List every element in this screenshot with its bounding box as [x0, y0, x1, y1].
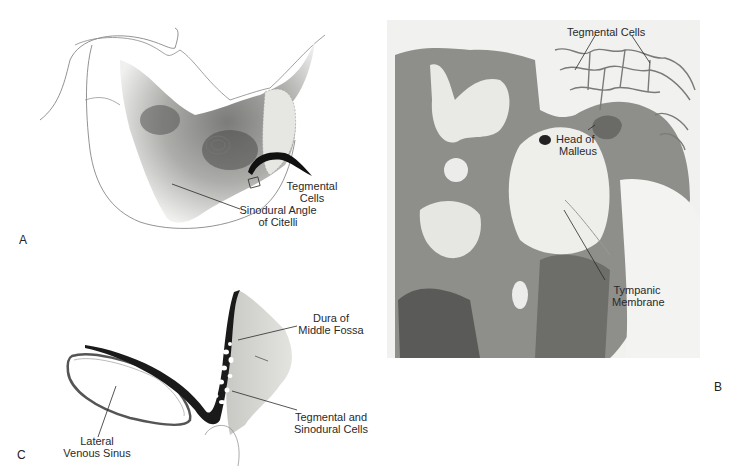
label-line: Venous Sinus [62, 447, 132, 459]
label-line: Middle Fossa [296, 324, 366, 336]
label-head-of-malleus: Head of Malleus [556, 133, 597, 157]
panel-c-illustration [0, 260, 380, 466]
label-line: Tegmental and [294, 411, 368, 423]
label-line: Head of [556, 133, 597, 145]
panel-letter-b: B [714, 380, 722, 394]
label-dura-middle-fossa: Dura of Middle Fossa [296, 312, 366, 336]
label-line: Membrane [612, 296, 662, 308]
label-tegmental-sinodural-cells: Tegmental and Sinodural Cells [294, 411, 368, 435]
panel-c: Dura of Middle Fossa Tegmental and Sinod… [0, 260, 380, 466]
label-line: Tympanic [612, 284, 662, 296]
label-line: Malleus [556, 145, 597, 157]
label-line: Sinodural Cells [294, 423, 368, 435]
panel-letter-c: C [17, 448, 26, 462]
label-tympanic-membrane: Tympanic Membrane [612, 284, 662, 308]
label-line: Lateral [62, 435, 132, 447]
label-tegmental-cells-b: Tegmental Cells [567, 26, 645, 38]
label-lateral-venous-sinus: Lateral Venous Sinus [62, 435, 132, 459]
label-line: Dura of [296, 312, 366, 324]
